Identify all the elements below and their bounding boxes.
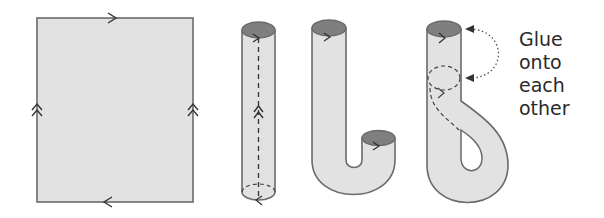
annotation-line-4: other — [519, 97, 570, 120]
annotation-line-3: each — [519, 74, 570, 97]
annotation-line-1: Glue — [519, 28, 570, 51]
cylinder — [242, 22, 275, 205]
glue-dotted-arrow — [470, 29, 499, 78]
klein-bottle-diagram — [0, 0, 604, 218]
square-with-edge-identifications — [32, 13, 198, 207]
glue-annotation: Glue onto each other — [519, 28, 570, 120]
glue-arrowhead-top-icon — [465, 25, 474, 33]
klein-bottle-construction — [427, 21, 508, 203]
annotation-line-2: onto — [519, 51, 570, 74]
bent-tube — [312, 20, 395, 195]
glue-arrowhead-bottom-icon — [465, 74, 474, 82]
